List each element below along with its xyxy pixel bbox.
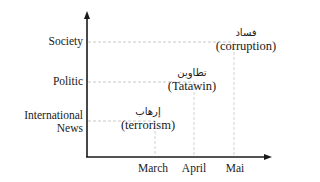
y-label-international-news: International News	[24, 109, 83, 135]
annotation-corruption-ar: فساد	[216, 26, 276, 39]
annotation-corruption-en: (corruption)	[216, 39, 276, 53]
x-label-march: March	[138, 162, 168, 175]
y-axis-arrow-icon	[84, 11, 90, 19]
x-label-april: April	[182, 162, 206, 175]
annotation-tatawin-en: (Tatawin)	[168, 79, 216, 93]
y-label-intl-line2: News	[24, 122, 83, 135]
annotation-terrorism-en: (terrorism)	[121, 118, 175, 132]
annotation-tatawin-ar: تطاوين	[168, 66, 216, 79]
y-label-intl-line1: International	[24, 109, 83, 122]
x-axis-arrow-icon	[264, 154, 272, 160]
x-label-mai: Mai	[226, 162, 245, 175]
annotation-tatawin: تطاوين (Tatawin)	[168, 66, 216, 93]
annotation-terrorism: إرهاب (terrorism)	[121, 105, 175, 132]
annotation-terrorism-ar: إرهاب	[121, 105, 175, 118]
y-label-society: Society	[49, 35, 84, 48]
annotation-corruption: فساد (corruption)	[216, 26, 276, 53]
y-label-politic: Politic	[53, 75, 83, 88]
